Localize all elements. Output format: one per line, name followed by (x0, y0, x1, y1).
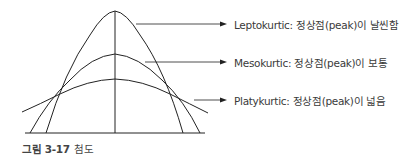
caption-number: 그림 3-17 (22, 143, 70, 155)
caption-title: 첨도 (74, 143, 93, 155)
mesokurtic-label: Mesokurtic: 정상점(peak)이 보통 (234, 55, 388, 70)
figure-caption: 그림 3-17첨도 (22, 141, 93, 156)
platykurtic-label: Platykurtic: 정상점(peak)이 넓음 (234, 93, 386, 108)
arrow-right-icon (220, 22, 227, 27)
arrow-right-icon (220, 98, 227, 103)
leptokurtic-label: Leptokurtic: 정상점(peak)이 날씬함 (234, 17, 399, 32)
arrow-right-icon (220, 60, 227, 65)
